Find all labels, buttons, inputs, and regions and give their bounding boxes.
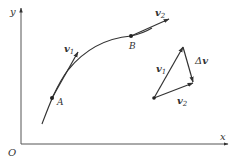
axes: x y O bbox=[8, 6, 228, 158]
point-b-group: B v2 bbox=[128, 7, 169, 51]
triangle-dv-arrow bbox=[183, 47, 193, 82]
triangle-dv-label: Δv bbox=[194, 55, 208, 66]
triangle-v2-arrow bbox=[154, 83, 193, 98]
point-a-dot bbox=[50, 96, 54, 100]
tangent-v1-arrow bbox=[52, 52, 78, 98]
v2-label-at-b: v2 bbox=[155, 7, 166, 20]
point-a-label: A bbox=[56, 97, 64, 107]
origin-label: O bbox=[8, 147, 16, 158]
v1-label-at-a: v1 bbox=[64, 43, 74, 56]
triangle-v1-label: v1 bbox=[156, 63, 166, 76]
x-axis-label: x bbox=[220, 131, 226, 142]
tangent-v2-arrow bbox=[131, 19, 169, 36]
point-b-label: B bbox=[128, 41, 136, 51]
diagram-canvas: x y O A v1 B v2 v1 v2 Δv bbox=[0, 0, 236, 163]
y-axis-label: y bbox=[9, 6, 16, 17]
triangle-origin-dot bbox=[152, 96, 156, 100]
triangle-v2-label: v2 bbox=[177, 95, 188, 108]
vector-triangle: v1 v2 Δv bbox=[152, 47, 208, 108]
point-b-dot bbox=[129, 34, 133, 38]
